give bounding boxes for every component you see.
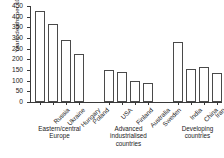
y-tick-label: 400 xyxy=(12,13,23,20)
y-axis-line xyxy=(30,6,31,103)
y-tick-label: 150 xyxy=(12,67,23,74)
bar xyxy=(186,69,196,102)
y-tick: 350 xyxy=(27,27,30,28)
x-axis-line xyxy=(30,102,222,103)
y-tick-label: 0 xyxy=(19,99,23,106)
y-tick: 300 xyxy=(27,38,30,39)
y-tick: 50 xyxy=(27,91,30,92)
y-tick-label: 50 xyxy=(16,88,23,95)
bar xyxy=(212,73,222,102)
y-tick: 100 xyxy=(27,81,30,82)
x-tick xyxy=(79,102,80,105)
bar xyxy=(48,24,58,102)
x-tick xyxy=(217,102,218,105)
bar xyxy=(143,83,153,102)
x-tick xyxy=(122,102,123,105)
x-tick xyxy=(66,102,67,105)
y-tick: 0 xyxy=(27,102,30,103)
x-tick xyxy=(204,102,205,105)
y-tick-label: 200 xyxy=(12,56,23,63)
plot-area: 050100150200250300350400450 xyxy=(30,6,222,103)
category-label: USA xyxy=(120,107,134,121)
y-tick-label: 350 xyxy=(12,24,23,31)
bar xyxy=(173,42,183,102)
bar xyxy=(199,67,209,102)
y-tick: 450 xyxy=(27,6,30,7)
y-tick: 150 xyxy=(27,70,30,71)
x-tick xyxy=(191,102,192,105)
group-label: Advanced industrialised countries xyxy=(98,125,160,147)
y-tick-label: 300 xyxy=(12,35,23,42)
bar xyxy=(117,72,127,102)
y-axis-label-wrapper: Yearly deaths per 1000 population xyxy=(0,4,10,104)
bar xyxy=(35,11,45,102)
y-tick: 200 xyxy=(27,59,30,60)
bar xyxy=(74,54,84,102)
x-tick xyxy=(148,102,149,105)
y-tick: 400 xyxy=(27,17,30,18)
group-label: Developing countries xyxy=(177,125,219,140)
x-tick xyxy=(53,102,54,105)
x-tick xyxy=(178,102,179,105)
y-tick-label: 450 xyxy=(12,3,23,10)
group-label: Eastern/central Europe xyxy=(37,125,83,140)
category-label: India xyxy=(189,107,203,121)
bar xyxy=(104,70,114,102)
y-tick: 250 xyxy=(27,49,30,50)
bar xyxy=(130,81,140,102)
bar-chart: Yearly deaths per 1000 population 050100… xyxy=(0,0,224,158)
x-tick xyxy=(135,102,136,105)
bar xyxy=(61,40,71,102)
y-tick-label: 250 xyxy=(12,45,23,52)
y-tick-label: 100 xyxy=(12,77,23,84)
x-tick xyxy=(109,102,110,105)
x-tick xyxy=(40,102,41,105)
